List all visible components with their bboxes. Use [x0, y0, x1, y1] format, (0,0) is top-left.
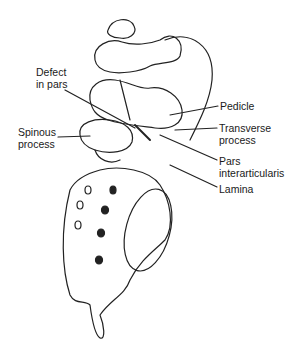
label-defect-in-pars: Defect in pars: [36, 66, 68, 90]
label-lamina: Lamina: [219, 183, 253, 195]
auricular-surface: [116, 184, 180, 277]
leader-pars: [160, 135, 217, 160]
label-pars-interarticularis: Pars interarticularis: [219, 155, 284, 179]
leader-lamina: [170, 165, 217, 187]
leader-pedicle: [170, 106, 218, 115]
label-transverse-process: Transverse process: [219, 122, 271, 146]
leader-spinous: [58, 136, 90, 137]
label-spinous-process: Spinous process: [18, 126, 56, 150]
spine-diagram: Defect in pars Spinous process Pedicle T…: [0, 0, 297, 344]
label-pedicle: Pedicle: [220, 100, 254, 112]
upper-vertebra-facet: [108, 20, 135, 39]
